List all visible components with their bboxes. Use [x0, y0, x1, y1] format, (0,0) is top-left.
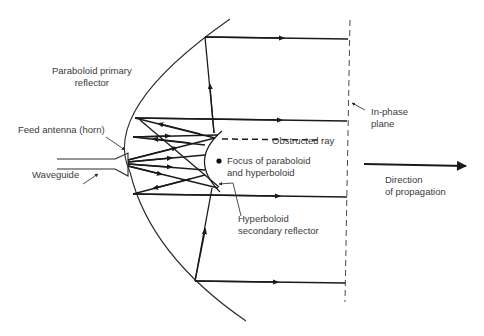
label-primary-reflector: Paraboloid primary reflector — [52, 65, 132, 89]
feed-horn — [115, 153, 128, 176]
propagation-arrow — [364, 164, 466, 166]
label-in-phase-plane: In-phase plane — [371, 106, 408, 130]
label-waveguide: Waveguide — [32, 169, 79, 181]
label-feed-antenna: Feed antenna (horn) — [18, 124, 105, 136]
label-focus: Focus of paraboloid and hyperboloid — [227, 155, 310, 179]
label-obstructed-ray: Obstructed ray — [272, 135, 334, 147]
in-phase-plane — [345, 20, 350, 302]
focus-point — [216, 158, 221, 163]
label-direction: Direction of propagation — [385, 174, 446, 198]
label-secondary-reflector: Hyperboloid secondary reflector — [238, 213, 319, 237]
